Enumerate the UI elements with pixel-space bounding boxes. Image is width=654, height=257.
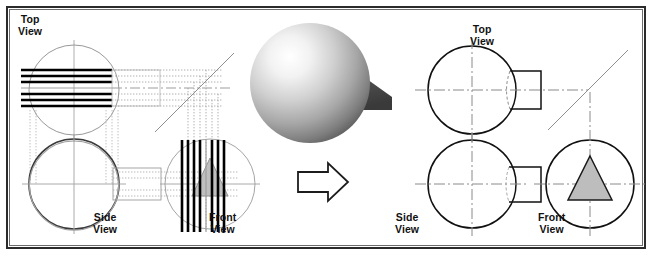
figure-root: Top View Side View Front View Top View S… [0,0,654,257]
sphere-body [250,23,370,143]
right-top-view-hidden-arc [507,71,511,109]
left-front-view-triangle [192,158,228,196]
right-miter-line [548,50,628,130]
right-side-view-hidden-arc [506,167,509,202]
right-arrow-shape [298,163,348,201]
left-top-view-projection-lines [21,70,112,106]
right-front-view-triangle [568,156,612,200]
right-arrow [298,163,348,201]
left-miter-line [155,53,234,132]
left-construction-panel [21,40,260,234]
left-side-view-label: Side View [93,212,117,235]
pictorial-illustration [250,23,392,143]
left-front-view-label: Front View [209,212,236,235]
right-finished-panel [415,38,647,236]
right-top-view-label: Top View [470,24,494,47]
left-top-view-label: Top View [18,14,42,37]
right-front-view-label: Front View [538,212,565,235]
right-side-view-label: Side View [395,212,419,235]
